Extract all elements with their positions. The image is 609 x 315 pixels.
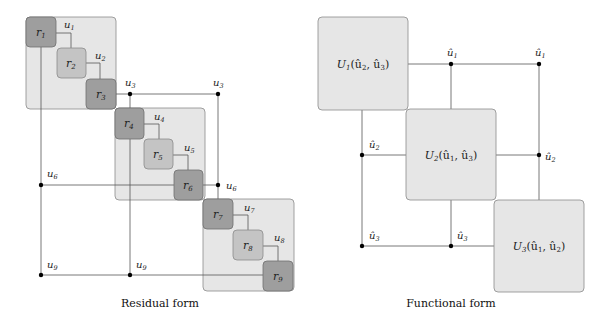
svg-text:û2: û2 [369, 139, 380, 152]
residual-r8: r8 [233, 230, 263, 260]
svg-text:û1: û1 [535, 47, 546, 60]
residual-r2: r2 [57, 48, 86, 78]
svg-text:û2: û2 [545, 151, 556, 164]
functional-form-panel: U1(û2, û3) U2(û1, û3) U3(û1, û2) û1 û1 û… [318, 17, 584, 310]
svg-text:u3: u3 [213, 77, 224, 90]
diagram-canvas: r1 r2 r3 r4 r5 r6 r7 r8 [0, 0, 609, 315]
residual-r6: r6 [174, 170, 203, 200]
functional-block-U3: U3(û1, û2) [494, 200, 584, 292]
functional-block-U1: U1(û2, û3) [318, 17, 408, 110]
residual-form-caption: Residual form [121, 297, 200, 310]
svg-text:u3: u3 [125, 77, 136, 90]
residual-r7: r7 [203, 199, 233, 229]
svg-text:u9: u9 [136, 259, 147, 272]
residual-r4: r4 [115, 108, 144, 139]
residual-r3: r3 [86, 79, 116, 109]
residual-r9: r9 [263, 261, 293, 291]
residual-form-panel: r1 r2 r3 r4 r5 r6 r7 r8 [26, 17, 294, 310]
functional-block-U2: U2(û1, û3) [406, 109, 496, 200]
svg-text:û1: û1 [447, 47, 458, 60]
svg-text:û3: û3 [369, 230, 380, 243]
functional-form-caption: Functional form [406, 297, 496, 310]
svg-text:u6: u6 [226, 180, 237, 193]
residual-r1: r1 [26, 17, 56, 47]
svg-text:û3: û3 [457, 230, 468, 243]
residual-r5: r5 [144, 139, 173, 169]
svg-text:u9: u9 [47, 259, 58, 272]
svg-text:u6: u6 [47, 168, 58, 181]
